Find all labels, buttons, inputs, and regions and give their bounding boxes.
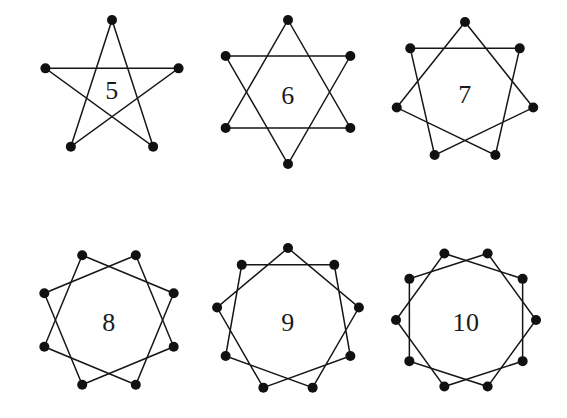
star-vertex-dot	[283, 243, 293, 253]
star-vertex-dot	[39, 342, 49, 352]
star-vertex-dot	[528, 103, 538, 113]
star-count-label-8: 8	[102, 308, 116, 337]
star-vertex-dot	[174, 63, 184, 73]
star-vertex-dot	[77, 380, 87, 390]
star-polygon-figure: 5678910	[0, 0, 567, 418]
star-vertex-dot	[283, 15, 293, 25]
star-vertex-dot	[329, 260, 339, 270]
star-vertex-dot	[354, 303, 364, 313]
star-vertex-dot	[131, 250, 141, 260]
star-vertex-dot	[221, 123, 231, 133]
star-vertex-dot	[107, 15, 117, 25]
star-vertex-dot	[39, 288, 49, 298]
star-vertex-dot	[490, 150, 500, 160]
star-vertex-dot	[221, 51, 231, 61]
star-vertex-dot	[405, 43, 415, 53]
star-count-label-9: 9	[281, 308, 295, 337]
star-vertex-dot	[66, 142, 76, 152]
star-vertex-dot	[460, 17, 470, 27]
star-vertex-dot	[308, 383, 318, 393]
star-vertex-dot	[345, 123, 355, 133]
star-vertex-dot	[345, 351, 355, 361]
star-vertex-dot	[404, 274, 414, 284]
star-vertex-dot	[531, 315, 541, 325]
star-vertex-dot	[345, 51, 355, 61]
star-vertex-dot	[430, 150, 440, 160]
star-vertex-dot	[404, 356, 414, 366]
star-count-label-10: 10	[453, 308, 480, 337]
star-vertex-dot	[148, 142, 158, 152]
star-count-label-5: 5	[105, 76, 119, 105]
star-vertex-dot	[221, 351, 231, 361]
star-vertex-dot	[518, 274, 528, 284]
star-vertex-dot	[392, 103, 402, 113]
star-vertex-dot	[237, 260, 247, 270]
star-vertex-dot	[40, 63, 50, 73]
star-count-label-6: 6	[281, 81, 295, 110]
star-vertex-dot	[77, 250, 87, 260]
star-vertex-dot	[258, 383, 268, 393]
star-vertex-dot	[212, 303, 222, 313]
star-vertex-dot	[169, 342, 179, 352]
star-vertex-dot	[169, 288, 179, 298]
star-vertex-dot	[283, 159, 293, 169]
star-vertex-dot	[483, 382, 493, 392]
star-vertex-dot	[391, 315, 401, 325]
star-vertex-dot	[518, 356, 528, 366]
star-vertex-dot	[439, 382, 449, 392]
star-count-label-7: 7	[458, 80, 472, 109]
figure-canvas: 5678910	[0, 0, 567, 418]
star-vertex-dot	[515, 43, 525, 53]
star-vertex-dot	[131, 380, 141, 390]
star-vertex-dot	[483, 248, 493, 258]
figure-background	[0, 0, 567, 418]
star-vertex-dot	[439, 248, 449, 258]
